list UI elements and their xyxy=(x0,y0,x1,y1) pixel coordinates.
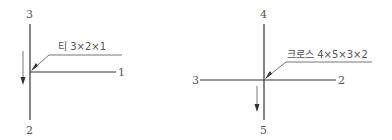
tee-leader-line xyxy=(32,55,122,70)
tee-leader-arrowhead-icon xyxy=(31,63,38,71)
pipe-fittings-diagram: 3 2 1 티 3×2×1 4 5 3 2 크로스 4×5×3×2 xyxy=(0,0,392,140)
cross-flow-down-arrow-icon xyxy=(255,104,260,112)
tee-label-right: 1 xyxy=(118,66,125,79)
tee-diagram: 3 2 1 티 3×2×1 xyxy=(21,8,126,137)
cross-label-right: 2 xyxy=(338,74,345,87)
tee-caption: 티 3×2×1 xyxy=(58,41,106,52)
cross-diagram: 4 5 3 2 크로스 4×5×3×2 xyxy=(192,8,372,137)
cross-label-bottom: 5 xyxy=(260,124,267,137)
cross-label-left: 3 xyxy=(192,74,199,87)
cross-leader-arrowhead-icon xyxy=(265,71,272,79)
tee-label-bottom: 2 xyxy=(26,124,33,137)
cross-leader-line xyxy=(266,62,372,78)
cross-caption: 크로스 4×5×3×2 xyxy=(287,49,368,60)
tee-label-top: 3 xyxy=(26,8,33,21)
cross-label-top: 4 xyxy=(260,8,267,21)
tee-flow-down-arrow-icon xyxy=(21,77,26,85)
